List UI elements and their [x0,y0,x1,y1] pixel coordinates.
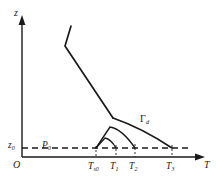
origin-label: O [13,160,20,170]
z0-sub: 0 [12,145,15,151]
z-axis-group [19,15,26,157]
environmental-sounding-curve [65,26,113,118]
thermodynamic-diagram: z T O z0 P0 Γd Ts0 T1 T2 T3 [0,0,220,186]
tick-label-t2: T2 [129,162,137,172]
gamma-symbol: Γ [140,113,146,124]
tick-label-t3: T3 [166,162,174,172]
tick-ts0-sub: s0 [93,166,98,172]
tick-t3-sub: 3 [171,166,174,172]
T-axis-label: T [204,160,210,170]
tick-t1-sub: 1 [115,166,118,172]
diagram-canvas [0,0,220,186]
z0-level-label: z0 [8,141,15,151]
p0-level-label: P0 [42,141,51,151]
parcel-path-t2-curve [96,127,135,148]
gamma-sub: d [146,118,149,125]
T-axis-group [22,154,205,161]
z-axis-arrowhead [19,15,26,25]
tick-label-ts0: Ts0 [88,162,99,172]
z-axis-label: z [14,8,18,18]
tick-t2-sub: 2 [134,166,137,172]
gamma-d-label: Γd [140,114,149,124]
p0-base: P [42,140,48,150]
p0-sub: 0 [48,145,51,151]
tick-label-t1: T1 [110,162,118,172]
